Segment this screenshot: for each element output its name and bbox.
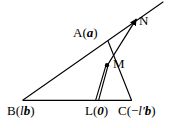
label-B-close-paren: ) bbox=[30, 103, 34, 118]
label-C-close-paren: ) bbox=[151, 103, 155, 118]
label-B-point: B bbox=[7, 103, 16, 118]
label-C-point: C bbox=[118, 103, 127, 118]
label-point-B: B(lb) bbox=[7, 104, 34, 117]
label-point-N: N bbox=[139, 14, 148, 27]
point-marker-M bbox=[105, 63, 109, 67]
segment-L-to-M-inner bbox=[96, 66, 106, 100]
label-point-C: C(−l′b) bbox=[118, 104, 156, 117]
geometry-figure: A(a) N M B(lb) L(0) C(−l′b) bbox=[0, 0, 186, 128]
label-N-point: N bbox=[139, 13, 148, 28]
label-A-close-paren: ) bbox=[93, 25, 97, 40]
label-point-L: L(0) bbox=[85, 104, 108, 117]
label-L-close-paren: ) bbox=[104, 103, 108, 118]
segment-L-to-M-outer bbox=[99, 66, 108, 100]
label-point-M: M bbox=[113, 57, 125, 70]
label-A-point: A bbox=[73, 25, 82, 40]
label-L-point: L bbox=[85, 103, 93, 118]
label-M-point: M bbox=[113, 56, 125, 71]
label-point-A: A(a) bbox=[73, 26, 98, 39]
